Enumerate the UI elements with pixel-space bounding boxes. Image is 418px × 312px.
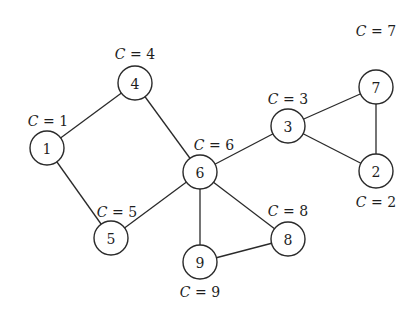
c-label-6: C = 6 [194, 137, 234, 153]
node-2: 2 [359, 154, 393, 188]
node-label: 6 [196, 165, 205, 181]
graph-diagram: 123456789 C = 1C = 2C = 3C = 4C = 5C = 6… [0, 0, 418, 312]
node-label: 5 [107, 231, 116, 247]
c-variable: C [97, 204, 108, 220]
c-value: = 3 [279, 91, 309, 107]
node-label: 8 [284, 232, 293, 248]
node-7: 7 [359, 70, 393, 104]
c-value: = 2 [367, 194, 397, 210]
c-label-4: C = 4 [115, 46, 155, 62]
c-value: = 4 [126, 46, 156, 62]
node-label: 4 [131, 76, 140, 92]
c-label-2: C = 2 [356, 194, 396, 210]
c-value: = 1 [39, 113, 69, 129]
node-5: 5 [94, 221, 128, 255]
nodes-layer: 123456789 [30, 66, 393, 279]
c-label-9: C = 9 [180, 284, 220, 300]
c-value: = 9 [191, 284, 221, 300]
c-label-5: C = 5 [97, 204, 137, 220]
c-label-1: C = 1 [28, 113, 68, 129]
node-label: 9 [196, 255, 205, 271]
node-label: 1 [43, 141, 52, 157]
c-value: = 5 [108, 204, 138, 220]
c-variable: C [115, 46, 126, 62]
c-variable: C [28, 113, 39, 129]
c-variable: C [268, 91, 279, 107]
node-1: 1 [30, 131, 64, 165]
node-label: 2 [372, 164, 381, 180]
c-value: = 7 [367, 23, 397, 39]
c-value: = 8 [279, 203, 309, 219]
node-6: 6 [183, 155, 217, 189]
c-variable: C [180, 284, 191, 300]
c-label-8: C = 8 [268, 203, 308, 219]
c-variable: C [356, 23, 367, 39]
node-8: 8 [271, 222, 305, 256]
node-label: 7 [372, 80, 381, 96]
node-3: 3 [271, 109, 305, 143]
node-label: 3 [284, 119, 293, 135]
c-variable: C [268, 203, 279, 219]
c-label-3: C = 3 [268, 91, 308, 107]
c-value: = 6 [205, 137, 235, 153]
c-label-7: C = 7 [356, 23, 396, 39]
c-variable: C [356, 194, 367, 210]
node-9: 9 [183, 245, 217, 279]
c-variable: C [194, 137, 205, 153]
node-4: 4 [118, 66, 152, 100]
